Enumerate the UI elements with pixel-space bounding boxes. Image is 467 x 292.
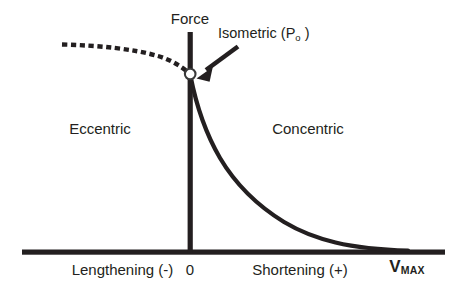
isometric-point-marker (185, 69, 196, 80)
vmax-label-subscript: MAX (401, 264, 425, 276)
concentric-curve-solid (191, 76, 409, 251)
eccentric-region-label: Eccentric (0, 121, 200, 136)
force-velocity-figure: Force Isometric (Po ) Eccentric Concentr… (0, 0, 467, 292)
concentric-region-label: Concentric (218, 121, 398, 136)
y-axis-line (188, 32, 193, 253)
isometric-arrow-shaft (206, 47, 238, 71)
x-axis-vmax-label: VMAX (372, 258, 442, 275)
isometric-annotation-label: Isometric (Po ) (218, 26, 310, 41)
force-velocity-plot (0, 0, 467, 292)
eccentric-curve-dashed (62, 45, 190, 75)
x-axis-origin-label: 0 (175, 262, 205, 277)
isometric-label-subscript: o (295, 32, 300, 43)
isometric-arrow-head (197, 67, 213, 82)
y-axis-label: Force (0, 11, 380, 26)
x-axis-right-label: Shortening (+) (205, 262, 395, 277)
vmax-label-main: V (389, 257, 400, 276)
isometric-label-suffix: ) (301, 25, 310, 41)
isometric-label-prefix: Isometric (P (218, 25, 295, 41)
